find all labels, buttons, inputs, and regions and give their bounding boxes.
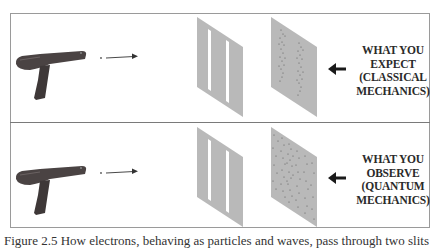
- panel-quantum: WHAT YOU OBSERVE (QUANTUM MECHANICS): [10, 123, 430, 231]
- electron-gun-icon: [16, 51, 86, 100]
- electron-dot: [100, 57, 102, 59]
- label-line: MECHANICS): [344, 85, 437, 99]
- electron-dot: [100, 172, 102, 174]
- double-slit-screen: [197, 17, 243, 117]
- label-line: OBSERVE: [344, 167, 437, 181]
- label-quantum: WHAT YOU OBSERVE (QUANTUM MECHANICS): [344, 153, 437, 207]
- label-line: EXPECT: [344, 58, 437, 72]
- panel-classical: WHAT YOU EXPECT (CLASSICAL MECHANICS): [10, 14, 430, 122]
- detector-screen: [271, 17, 317, 117]
- label-line: WHAT YOU: [344, 44, 437, 58]
- label-line: (QUANTUM: [344, 180, 437, 194]
- detector-screen: [271, 127, 317, 227]
- electron-gun-icon: [16, 166, 86, 215]
- label-line: (CLASSICAL: [344, 71, 437, 85]
- double-slit-screen: [197, 127, 243, 227]
- label-line: WHAT YOU: [344, 153, 437, 167]
- trajectory-arrow-icon: [106, 54, 138, 60]
- label-line: MECHANICS): [344, 194, 437, 208]
- figure-caption: Figure 2.5 How electrons, behaving as pa…: [4, 233, 429, 249]
- label-classical: WHAT YOU EXPECT (CLASSICAL MECHANICS): [344, 44, 437, 98]
- trajectory-arrow-icon: [106, 169, 138, 175]
